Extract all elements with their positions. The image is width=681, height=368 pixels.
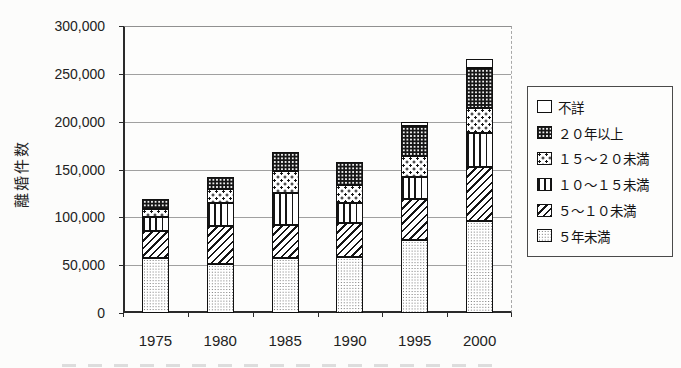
x-tick-label: 2000 bbox=[447, 332, 512, 350]
x-axis-tick bbox=[511, 313, 512, 317]
bar-segment bbox=[272, 171, 299, 193]
bar-segment bbox=[142, 209, 169, 218]
legend-item: ２０年以上 bbox=[537, 120, 668, 146]
bar-segment bbox=[142, 199, 169, 209]
y-tick-label: 200,000 bbox=[30, 114, 105, 130]
bar-segment bbox=[207, 226, 234, 264]
legend-label: １０～１５未満 bbox=[558, 174, 649, 194]
bar-segment bbox=[466, 167, 493, 222]
y-tick-label: 100,000 bbox=[30, 209, 105, 225]
bar-segment bbox=[466, 108, 493, 133]
bar-segment bbox=[336, 223, 363, 256]
y-axis-tick bbox=[119, 265, 124, 266]
black-dotted-swatch-icon bbox=[537, 126, 552, 139]
legend-label: 不詳 bbox=[558, 97, 584, 117]
bar-segment bbox=[272, 193, 299, 225]
x-axis-tick bbox=[447, 313, 448, 317]
legend-label: ５年未満 bbox=[558, 226, 610, 246]
gridline bbox=[125, 122, 511, 123]
y-tick-label: 50,000 bbox=[30, 257, 105, 273]
x-axis-tick bbox=[123, 313, 124, 317]
bar-segment bbox=[207, 189, 234, 203]
x-axis-tick bbox=[253, 313, 254, 317]
fine-dots-swatch-icon bbox=[537, 229, 552, 242]
bar-segment bbox=[207, 264, 234, 313]
bar-segment bbox=[466, 59, 493, 68]
bar-segment bbox=[401, 122, 428, 127]
bar-segment bbox=[142, 231, 169, 258]
bar-segment bbox=[336, 162, 363, 185]
x-axis-tick bbox=[382, 313, 383, 317]
bar-segment bbox=[466, 68, 493, 108]
plain-white-swatch-icon bbox=[537, 100, 552, 113]
gridline bbox=[125, 217, 511, 218]
vertical-stripes-swatch-icon bbox=[537, 178, 552, 191]
gridline bbox=[125, 74, 511, 75]
legend-item: １５～２０未満 bbox=[537, 146, 668, 172]
gridline bbox=[125, 170, 511, 171]
y-axis-tick bbox=[119, 217, 124, 218]
y-axis-tick bbox=[119, 122, 124, 123]
plot-area bbox=[123, 26, 512, 313]
bar-segment bbox=[336, 203, 363, 223]
legend-label: ２０年以上 bbox=[558, 123, 623, 143]
legend: 不詳２０年以上１５～２０未満１０～１５未満５～１０未満５年未満 bbox=[527, 86, 673, 257]
x-tick-label: 1980 bbox=[188, 332, 253, 350]
x-axis-tick bbox=[188, 313, 189, 317]
x-tick-label: 1975 bbox=[123, 332, 188, 350]
bar-segment bbox=[272, 152, 299, 171]
y-tick-label: 150,000 bbox=[30, 162, 105, 178]
legend-item: 不詳 bbox=[537, 94, 668, 120]
sparse-dots-swatch-icon bbox=[537, 152, 552, 165]
diagonal-hatch-swatch-icon bbox=[537, 204, 552, 217]
bar-segment bbox=[142, 258, 169, 313]
cropped-text-remnant bbox=[62, 364, 492, 367]
y-tick-label: 0 bbox=[30, 305, 105, 321]
y-axis-title: 離婚件数 bbox=[10, 128, 30, 220]
y-axis-tick bbox=[119, 170, 124, 171]
y-axis-tick bbox=[119, 26, 124, 27]
bar-segment bbox=[401, 177, 428, 199]
bar-segment bbox=[466, 133, 493, 166]
x-axis-tick bbox=[318, 313, 319, 317]
gridline bbox=[125, 265, 511, 266]
bar-segment bbox=[466, 221, 493, 313]
bar-segment bbox=[336, 257, 363, 313]
bar-segment bbox=[142, 217, 169, 230]
bar-segment bbox=[401, 126, 428, 156]
bar-segment bbox=[272, 258, 299, 313]
legend-item: ５年未満 bbox=[537, 223, 668, 249]
y-axis-tick bbox=[119, 74, 124, 75]
legend-label: １５～２０未満 bbox=[558, 148, 649, 168]
bar-segment bbox=[272, 225, 299, 258]
bar-segment bbox=[401, 156, 428, 177]
y-tick-label: 300,000 bbox=[30, 18, 105, 34]
stacked-bar-chart: 離婚件数 不詳２０年以上１５～２０未満１０～１５未満５～１０未満５年未満 300… bbox=[0, 0, 681, 368]
y-tick-label: 250,000 bbox=[30, 66, 105, 82]
legend-item: １０～１５未満 bbox=[537, 171, 668, 197]
legend-item: ５～１０未満 bbox=[537, 197, 668, 223]
bar-segment bbox=[336, 185, 363, 203]
bar-segment bbox=[401, 240, 428, 313]
x-tick-label: 1995 bbox=[382, 332, 447, 350]
bar-segment bbox=[207, 203, 234, 226]
bar-segment bbox=[401, 199, 428, 240]
x-tick-label: 1985 bbox=[253, 332, 318, 350]
legend-label: ５～１０未満 bbox=[558, 200, 636, 220]
x-tick-label: 1990 bbox=[318, 332, 383, 350]
bar-segment bbox=[207, 177, 234, 188]
